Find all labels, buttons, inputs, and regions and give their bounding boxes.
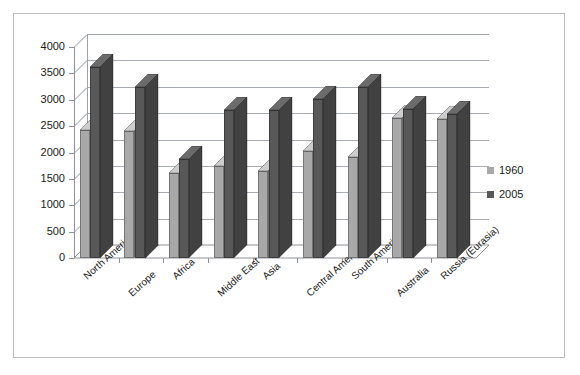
bar-front-face (135, 87, 145, 258)
bar-side-face (279, 97, 293, 259)
depth-connector (74, 87, 88, 101)
category-tick (387, 258, 388, 263)
gridline (87, 34, 489, 35)
bar-front-face (392, 118, 402, 258)
bar-front-face (169, 173, 179, 258)
category-label-4: Asia (261, 261, 282, 281)
depth-connector (74, 34, 88, 48)
category-tick (119, 258, 120, 263)
y-axis-label: 2500 (14, 120, 65, 131)
category-label-1: Europe (127, 269, 158, 298)
y-axis-label: 2000 (14, 147, 65, 158)
bar-side-face (145, 74, 159, 259)
bar-2005-1[interactable] (135, 74, 158, 258)
category-tick (208, 258, 209, 263)
depth-connector (74, 61, 88, 75)
bar-front-face (403, 109, 413, 258)
bar-front-face (80, 130, 90, 258)
bar-2005-0[interactable] (90, 54, 113, 258)
bar-2005-2[interactable] (179, 146, 202, 258)
y-axis-label: 4000 (14, 41, 65, 52)
y-axis-line (74, 47, 75, 258)
legend-swatch-2005 (487, 191, 494, 198)
legend-swatch-1960 (487, 167, 494, 174)
bar-front-face (179, 159, 189, 258)
bar-2005-6[interactable] (358, 74, 381, 258)
bar-2005-5[interactable] (313, 86, 336, 258)
bar-front-face (437, 119, 447, 258)
bar-side-face (457, 101, 471, 259)
y-axis-label: 3500 (14, 67, 65, 78)
bar-front-face (358, 87, 368, 258)
y-axis-label: 1500 (14, 173, 65, 184)
y-axis-label: 0 (14, 252, 65, 263)
bar-2005-3[interactable] (224, 97, 247, 258)
bar-side-face (413, 96, 427, 259)
bar-side-face (100, 54, 114, 259)
bar-front-face (90, 67, 100, 258)
bar-front-face (313, 99, 323, 258)
bar-front-face (224, 110, 234, 258)
bar-front-face (124, 131, 134, 258)
bar-front-face (303, 151, 313, 258)
category-label-2: Africa (171, 257, 197, 282)
category-tick (431, 258, 432, 263)
chart-legend: 19602005 (487, 164, 555, 212)
legend-item-1960[interactable]: 1960 (487, 164, 555, 176)
plot-area: 05001000150020002500300035004000North Am… (14, 14, 564, 357)
bar-front-face (447, 114, 457, 258)
legend-item-2005[interactable]: 2005 (487, 188, 555, 200)
gridline (87, 60, 489, 61)
bar-2005-4[interactable] (269, 97, 292, 258)
chart-frame: 05001000150020002500300035004000North Am… (13, 13, 565, 358)
bar-front-face (258, 171, 268, 258)
bar-2005-7[interactable] (403, 96, 426, 258)
bar-front-face (269, 110, 279, 258)
legend-label: 1960 (499, 165, 523, 176)
legend-label: 2005 (499, 189, 523, 200)
y-axis-label: 3000 (14, 94, 65, 105)
category-tick (163, 258, 164, 263)
category-label-3: Middle East (216, 256, 262, 298)
bar-side-face (323, 86, 337, 259)
y-axis-label: 1000 (14, 199, 65, 210)
bar-side-face (234, 97, 248, 259)
category-label-7: Australia (395, 265, 431, 298)
bar-front-face (348, 157, 358, 258)
bar-side-face (368, 74, 382, 259)
bar-front-face (214, 166, 224, 258)
category-tick (297, 258, 298, 263)
y-axis-label: 500 (14, 226, 65, 237)
bar-side-face (189, 146, 203, 259)
bar-2005-8[interactable] (447, 101, 470, 258)
